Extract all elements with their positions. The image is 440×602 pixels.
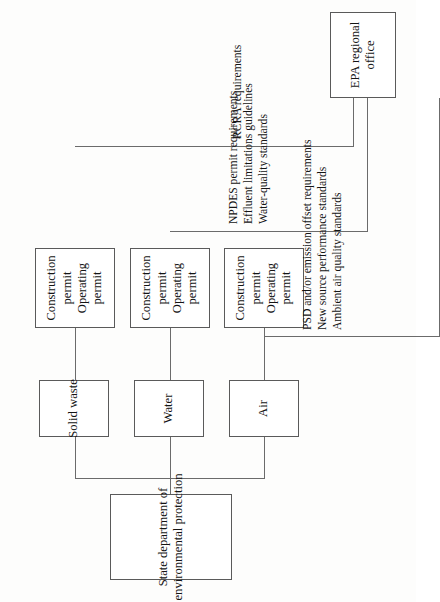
node-permits-air[interactable]: Construction permit Operating permit — [224, 248, 304, 328]
permits-water-line3: Operating — [170, 263, 185, 313]
requirement-air-2: Ambient air quality standards — [330, 140, 345, 330]
water-label: Water — [161, 394, 176, 424]
requirement-water-2: Water-quality standards — [256, 83, 271, 224]
connector-state-to-solid-waste — [75, 437, 76, 479]
node-permits-solid-waste[interactable]: Construction permit Operating permit — [35, 248, 115, 328]
requirements-air-list: PSD and/or emission offset requirements … — [300, 140, 345, 330]
requirement-air-1: New source performance standards — [315, 140, 330, 330]
permits-solidwaste-line3: Operating — [75, 263, 90, 313]
connector-solidwaste-to-permits — [75, 328, 76, 380]
state-department-line2: environmental protection — [171, 474, 186, 601]
connector-epa-air-vertical — [264, 336, 440, 337]
connector-water-to-permits — [170, 328, 171, 380]
permits-air-line1: Construction — [233, 255, 248, 320]
node-state-department[interactable]: State department of environmental protec… — [110, 494, 232, 580]
permits-solidwaste-line2: permit — [60, 272, 75, 305]
node-solid-waste[interactable]: Solid waste — [39, 380, 109, 437]
epa-line2: office — [363, 40, 378, 69]
requirements-solid-waste-list: RCRA requirements — [230, 45, 245, 139]
node-air[interactable]: Air — [229, 380, 299, 437]
requirement-solidwaste-0: RCRA requirements — [230, 45, 245, 139]
permits-water-line2: permit — [155, 272, 170, 305]
air-label: Air — [256, 400, 271, 417]
permits-water-line4: permit — [185, 272, 200, 305]
connector-state-to-air — [264, 437, 265, 479]
node-permits-water[interactable]: Construction permit Operating permit — [130, 248, 210, 328]
state-department-line1: State department of — [156, 488, 171, 587]
permits-solidwaste-line1: Construction — [44, 255, 59, 320]
node-water[interactable]: Water — [134, 380, 204, 437]
connector-epa-rcra-horizontal — [353, 98, 354, 147]
solid-waste-label: Solid waste — [66, 379, 81, 437]
permits-air-line4: permit — [279, 272, 294, 305]
epa-line1: EPA regional — [348, 22, 363, 88]
permits-water-line1: Construction — [139, 255, 154, 320]
node-epa-regional-office[interactable]: EPA regional office — [330, 12, 396, 98]
requirement-air-0: PSD and/or emission offset requirements — [300, 140, 315, 330]
permits-air-line3: Operating — [264, 263, 279, 313]
permits-solidwaste-line4: permit — [90, 272, 105, 305]
connector-epa-water-horizontal — [367, 98, 368, 232]
permits-air-line2: permit — [249, 272, 264, 305]
